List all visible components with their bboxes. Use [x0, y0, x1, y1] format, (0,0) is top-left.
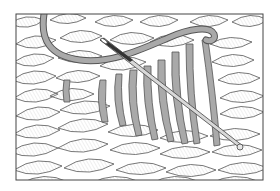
- knit-fabric: [10, 13, 268, 188]
- knitting-illustration: [0, 0, 280, 191]
- illustration-svg: [0, 0, 280, 191]
